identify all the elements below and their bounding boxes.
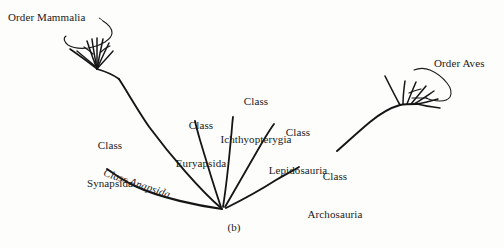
label-class-synapsida-line1: Class <box>78 139 142 152</box>
mammalia-radiation <box>70 38 119 79</box>
label-class-synapsida: Class Synapsida <box>78 114 142 214</box>
label-class-archosauria-line1: Class <box>300 170 370 183</box>
mammalia-stem <box>97 69 119 79</box>
mammalia-leader-line <box>99 18 103 21</box>
aves-branch-2 <box>403 81 405 104</box>
label-class-archosauria-line2: Archosauria <box>300 208 370 221</box>
figure-container: Order Mammalia Order Aves Class Synapsid… <box>0 0 504 248</box>
label-order-aves: Order Aves <box>434 57 485 70</box>
figure-caption: (b) <box>218 221 250 234</box>
aves-bracket <box>414 69 451 102</box>
label-class-lepidosauria-line1: Class <box>262 126 334 139</box>
label-order-mammalia: Order Mammalia <box>8 11 85 24</box>
aves-branch-7 <box>417 104 440 108</box>
aves-radiation <box>385 76 440 108</box>
label-class-archosauria: Class Archosauria <box>300 145 370 245</box>
aves-branch-1 <box>385 76 400 105</box>
aves-twig-1 <box>409 89 421 93</box>
